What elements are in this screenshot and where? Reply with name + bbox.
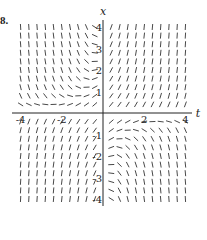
slope-segment <box>185 58 186 64</box>
slope-segment <box>169 67 170 73</box>
slope-segment <box>152 93 154 99</box>
slope-segment <box>168 136 170 142</box>
slope-segment <box>152 67 153 73</box>
slope-segment <box>169 41 170 47</box>
slope-segment <box>61 179 62 185</box>
slope-segment <box>86 196 87 202</box>
slope-segment <box>126 145 130 149</box>
slope-segment <box>20 162 21 168</box>
slope-segment <box>118 76 120 82</box>
slope-segment <box>134 102 137 107</box>
slope-segment <box>143 136 146 141</box>
slope-segment <box>109 120 114 124</box>
slope-segment <box>29 50 30 56</box>
slope-segment <box>168 76 169 82</box>
slope-segment <box>117 147 123 149</box>
slope-segment <box>118 85 121 90</box>
slope-segment <box>85 153 87 159</box>
slope-segment <box>53 67 54 73</box>
slope-segment <box>45 162 46 168</box>
slope-segment <box>152 50 153 56</box>
slope-segment <box>127 76 129 82</box>
slope-segment <box>143 84 145 90</box>
slope-segment <box>37 33 38 39</box>
slope-segment <box>177 84 178 90</box>
slope-segment <box>37 179 38 185</box>
slope-segment <box>86 187 87 193</box>
slope-segment <box>27 93 30 98</box>
slope-segment <box>160 41 161 47</box>
slope-segment <box>20 50 21 56</box>
slope-segment <box>61 187 62 193</box>
slope-segment <box>42 104 48 105</box>
slope-segment <box>69 41 70 47</box>
slope-segment <box>53 196 54 202</box>
slope-segment <box>109 128 114 131</box>
slope-segment <box>118 179 121 184</box>
slope-segment <box>169 179 170 185</box>
slope-segment <box>61 136 63 142</box>
slope-segment <box>86 170 88 176</box>
slope-segment <box>37 170 38 176</box>
slope-segment <box>135 93 137 99</box>
slope-segment <box>109 197 114 200</box>
slope-segment <box>152 41 153 47</box>
slope-segment <box>37 162 38 168</box>
slope-segment <box>169 58 170 64</box>
slope-segment <box>45 144 46 150</box>
slope-segment <box>169 170 170 176</box>
slope-segment <box>127 50 128 56</box>
slope-segment <box>53 33 54 39</box>
slope-segment <box>185 93 186 99</box>
slope-segment <box>61 170 62 176</box>
slope-segment <box>61 24 62 30</box>
slope-segment <box>69 33 70 39</box>
slope-segment <box>78 187 79 193</box>
slope-segment <box>152 84 153 90</box>
slope-segment <box>127 24 128 30</box>
slope-segment <box>77 136 79 142</box>
slope-segment <box>160 170 161 176</box>
slope-segment <box>152 187 153 193</box>
slope-segment <box>184 102 186 108</box>
slope-segment <box>127 188 129 194</box>
slope-segment <box>143 93 145 99</box>
slope-segment <box>84 103 89 106</box>
slope-segment <box>28 136 29 142</box>
slope-segment <box>44 127 46 133</box>
slope-segment <box>69 145 71 151</box>
slope-segment <box>151 145 153 151</box>
slope-segment <box>168 93 170 99</box>
slope-segment <box>45 67 46 73</box>
slope-segment <box>135 84 137 90</box>
slope-segment <box>37 50 38 56</box>
slope-segment <box>70 24 71 30</box>
slope-segment <box>143 153 145 159</box>
slope-segment <box>135 41 136 47</box>
slope-segment <box>28 127 29 133</box>
slope-segment <box>143 102 146 107</box>
slope-segment <box>45 187 46 193</box>
slope-segment <box>160 196 161 202</box>
slope-segment <box>69 153 70 159</box>
slope-segment <box>53 179 54 185</box>
slope-segment <box>20 144 21 150</box>
slope-segment <box>45 76 47 82</box>
slope-segment <box>29 170 30 176</box>
slope-segment <box>135 187 136 193</box>
slope-segment <box>70 196 71 202</box>
slope-segment <box>143 145 145 151</box>
slope-segment <box>53 170 54 176</box>
slope-segment <box>78 162 79 168</box>
slope-segment <box>159 128 163 133</box>
slope-segment <box>185 76 186 82</box>
slope-segment <box>144 33 145 39</box>
slope-segment <box>84 95 90 97</box>
slope-segment <box>67 95 73 97</box>
slope-segment <box>136 24 137 30</box>
t-tick-label: -2 <box>57 114 67 125</box>
slope-segment <box>160 33 161 39</box>
slope-segment <box>69 127 71 133</box>
slope-segment <box>61 144 62 150</box>
slope-segment <box>69 67 71 73</box>
